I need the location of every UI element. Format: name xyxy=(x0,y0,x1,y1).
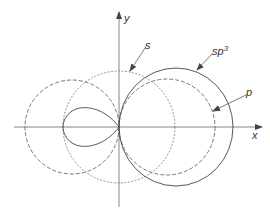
sp3-label-superscript: 3 xyxy=(224,44,229,53)
p-pointer-arrow xyxy=(213,95,246,111)
s-label: s xyxy=(145,39,151,51)
sp3-label-base: sp xyxy=(212,45,224,57)
sp3-pointer-arrow xyxy=(197,53,213,70)
orbital-diagram: y x s sp3 p xyxy=(0,0,270,217)
y-axis-label: y xyxy=(123,12,131,24)
x-axis-label: x xyxy=(251,129,258,141)
sp3-label: sp3 xyxy=(212,44,229,57)
p-label: p xyxy=(245,86,252,98)
